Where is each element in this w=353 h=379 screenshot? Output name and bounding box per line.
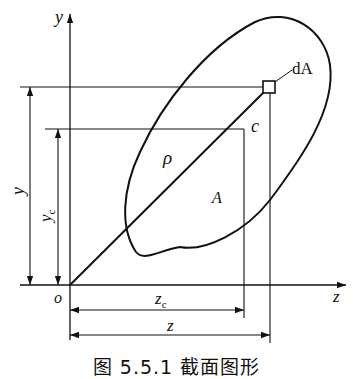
z-axis-label: z — [332, 287, 340, 306]
centroid-label: c — [251, 116, 259, 136]
z-dimension-label: z — [166, 316, 174, 335]
radius-label: ρ — [162, 147, 172, 168]
y-dimension-label: y — [8, 187, 28, 197]
area-boundary — [125, 17, 331, 256]
radius-line — [70, 92, 264, 285]
yc-dimension-label: yc — [36, 209, 57, 224]
svg-text:yc: yc — [36, 209, 57, 224]
area-element-square — [263, 81, 275, 93]
figure-caption: 图 5.5.1 截面图形 — [0, 352, 353, 379]
area-label: A — [211, 189, 222, 206]
da-leader-line — [275, 70, 292, 82]
origin-label: o — [54, 289, 62, 306]
y-axis-label: y — [53, 7, 63, 27]
da-label: dA — [292, 59, 314, 78]
zc-dimension-label: zc — [154, 289, 167, 310]
